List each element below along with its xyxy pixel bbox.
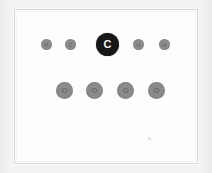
node-top-row-1[interactable]: R xyxy=(41,39,52,50)
node-label: H xyxy=(136,41,140,47)
node-label: O xyxy=(91,86,97,94)
node-top-row-5[interactable]: H xyxy=(159,39,170,50)
node-bottom-row-4[interactable]: O xyxy=(148,82,165,99)
node-label: R xyxy=(44,41,48,47)
node-bottom-row-1[interactable]: O xyxy=(56,82,73,99)
node-label: O xyxy=(153,86,159,94)
node-label: C xyxy=(104,39,112,50)
node-label: O xyxy=(122,86,128,94)
node-label: C xyxy=(68,41,72,47)
node-bottom-row-2[interactable]: O xyxy=(86,82,103,99)
node-top-row-3[interactable]: C xyxy=(96,33,119,56)
screenshot-canvas: RCCHHOOOO xyxy=(0,0,212,173)
faint-speck xyxy=(148,137,151,140)
node-top-row-4[interactable]: H xyxy=(133,39,144,50)
node-diagram-panel: RCCHHOOOO xyxy=(14,9,198,164)
node-label: O xyxy=(61,86,67,94)
node-label: H xyxy=(162,41,166,47)
node-bottom-row-3[interactable]: O xyxy=(117,82,134,99)
node-layer: RCCHHOOOO xyxy=(15,10,197,163)
node-top-row-2[interactable]: C xyxy=(65,39,76,50)
